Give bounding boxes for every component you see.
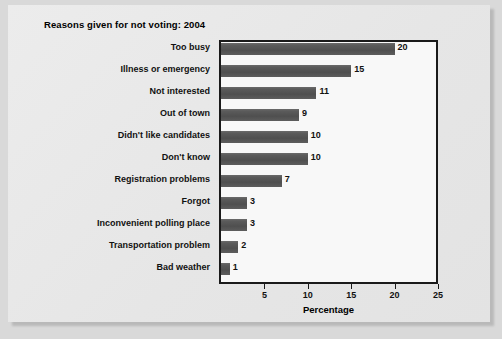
bar-value-label: 3 <box>250 217 255 229</box>
bar <box>221 219 247 231</box>
bar-row: Don't know10 <box>8 153 502 165</box>
category-label: Not interested <box>8 85 210 97</box>
category-label: Registration problems <box>8 173 210 185</box>
category-label: Too busy <box>8 41 210 53</box>
x-tick-label: 5 <box>262 290 267 300</box>
bar-value-label: 7 <box>285 173 290 185</box>
bar-row: Out of town9 <box>8 109 502 121</box>
bar <box>221 43 395 55</box>
bar-row: Bad weather1 <box>8 263 502 275</box>
bar-value-label: 15 <box>354 63 364 75</box>
x-axis: Percentage 510152025 <box>8 284 502 329</box>
figure-root: Reasons given for not voting: 2004 Too b… <box>0 0 502 339</box>
bar-row: Forgot3 <box>8 197 502 209</box>
bar-row: Not interested11 <box>8 87 502 99</box>
bar <box>221 109 299 121</box>
bar-row: Transportation problem2 <box>8 241 502 253</box>
bar <box>221 263 230 275</box>
category-label: Bad weather <box>8 261 210 273</box>
bar-value-label: 2 <box>241 239 246 251</box>
chart-title: Reasons given for not voting: 2004 <box>44 19 205 30</box>
bar <box>221 131 308 143</box>
bar-rows: Too busy20Illness or emergency15Not inte… <box>8 40 502 284</box>
bar-row: Illness or emergency15 <box>8 65 502 77</box>
category-label: Inconvenient polling place <box>8 217 210 229</box>
bar-value-label: 3 <box>250 195 255 207</box>
bar-row: Registration problems7 <box>8 175 502 187</box>
bar <box>221 65 351 77</box>
x-tick-label: 25 <box>433 290 443 300</box>
x-axis-title: Percentage <box>219 304 438 315</box>
bar <box>221 241 238 253</box>
category-label: Illness or emergency <box>8 63 210 75</box>
bar-value-label: 10 <box>311 129 321 141</box>
x-tick <box>395 284 396 289</box>
bar-value-label: 20 <box>398 41 408 53</box>
x-tick-label: 15 <box>346 290 356 300</box>
bar-row: Didn't like candidates10 <box>8 131 502 143</box>
x-tick <box>351 284 352 289</box>
bar-value-label: 9 <box>302 107 307 119</box>
bar-row: Inconvenient polling place3 <box>8 219 502 231</box>
x-tick-label: 20 <box>390 290 400 300</box>
x-tick <box>308 284 309 289</box>
category-label: Transportation problem <box>8 239 210 251</box>
x-tick-label: 10 <box>303 290 313 300</box>
bar <box>221 197 247 209</box>
bar <box>221 153 308 165</box>
bar <box>221 87 316 99</box>
category-label: Didn't like candidates <box>8 129 210 141</box>
bar-row: Too busy20 <box>8 43 502 55</box>
bar-value-label: 10 <box>311 151 321 163</box>
category-label: Don't know <box>8 151 210 163</box>
category-label: Out of town <box>8 107 210 119</box>
figure-card: Reasons given for not voting: 2004 Too b… <box>8 5 490 322</box>
x-tick <box>264 284 265 289</box>
bar-value-label: 1 <box>233 261 238 273</box>
bar-value-label: 11 <box>319 85 329 97</box>
category-label: Forgot <box>8 195 210 207</box>
bar <box>221 175 282 187</box>
x-tick <box>438 284 439 289</box>
